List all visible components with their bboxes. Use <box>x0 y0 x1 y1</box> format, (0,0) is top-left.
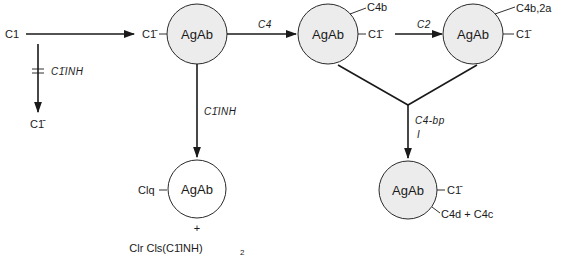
inhibitor-label-left: C1̄INH <box>51 66 84 77</box>
n3-c4b2a-label: C4b,2a <box>516 2 552 14</box>
edge-c2-label: C2 <box>417 19 431 30</box>
n4-clq-label: Clq <box>138 184 155 196</box>
n2-c4b-label: C4b <box>367 1 387 13</box>
n5-c1bar-label: C1̄ <box>447 184 463 196</box>
n1-c1bar-label: C1̄ <box>142 28 158 40</box>
complement-pathway-diagram: C1 C1̄INH C1̄ C1̄ AgAb C4 AgAb C4b C1̄ C… <box>0 0 578 260</box>
n3-c1bar-label: C1̄ <box>516 28 532 40</box>
c1bar-product-label: C1̄ <box>30 118 46 130</box>
edge-factor-i-label: I <box>417 129 420 140</box>
released-subscript: 2 <box>240 248 245 257</box>
n5-c4d-c4c-label: C4d + C4c <box>441 208 494 220</box>
released-components: Clr Cls(C1̄INH) <box>129 242 202 254</box>
n2-c1bar-label: C1̄ <box>368 28 384 40</box>
n3-label: AgAb <box>457 27 489 42</box>
edge-c1inh-label: C1̄INH <box>204 106 237 117</box>
edge-c4-label: C4 <box>258 19 272 30</box>
edge-merge-v <box>338 65 477 105</box>
edge-c4bp-label: C4-bp <box>415 115 445 126</box>
n5-label: AgAb <box>392 183 424 198</box>
n2-label: AgAb <box>312 27 344 42</box>
n3-c4b2a-tick <box>495 7 515 14</box>
n2-c4b-tick <box>350 8 366 14</box>
plus-sign: + <box>194 222 200 234</box>
n1-label: AgAb <box>181 27 213 42</box>
n4-label: AgAb <box>181 182 213 197</box>
start-c1-label: C1 <box>5 28 19 40</box>
n5-c4dc-tick <box>432 207 440 213</box>
